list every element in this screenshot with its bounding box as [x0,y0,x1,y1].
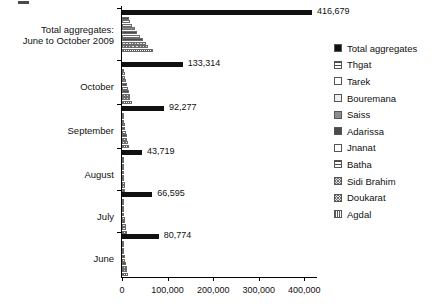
series-bar [122,120,124,123]
figure-corner-mark [18,1,29,4]
series-bar [122,131,126,134]
series-bar [122,72,125,75]
series-bar [122,45,148,48]
series-bar [122,167,124,170]
category-label-line: Total aggregates: [23,24,114,35]
series-bar [122,175,124,178]
series-bar [122,38,143,41]
x-tick-mark [304,277,305,281]
series-bar [122,182,125,185]
legend-item[interactable]: Thgat [334,57,438,74]
series-bar [122,209,124,212]
series-bar [122,76,125,79]
series-bar [122,244,124,247]
legend-item[interactable]: Total aggregates [334,40,438,57]
legend-item[interactable]: Saiss [334,106,438,123]
legend-swatch-icon [334,210,342,218]
category-label-line: July [97,211,114,222]
legend-swatch-icon [334,94,342,102]
series-bar [122,127,125,130]
series-bar [122,220,125,223]
series-bar [122,134,127,137]
category-label: Total aggregates:June to October 2009 [23,24,114,46]
legend-item[interactable]: Doukarat [334,189,438,206]
series-bar [122,35,140,38]
series-bar [122,217,125,220]
total-bar [122,106,164,111]
series-bar [122,97,130,100]
legend-label: Jnanat [347,142,376,153]
series-bar [122,31,137,34]
x-tick-label: 100,000 [151,285,184,295]
series-bar [122,185,125,188]
legend-item[interactable]: Agdal [334,206,438,223]
series-bar [122,248,124,251]
series-bar [122,20,130,23]
series-bar [122,202,124,205]
category-label: June [93,253,114,264]
legend-label: Tarek [347,76,370,87]
series-bar [122,141,128,144]
legend-item[interactable]: Tarek [334,73,438,90]
bar-value-label: 43,719 [147,146,175,156]
bar-value-label: 92,277 [169,102,197,112]
legend-label: Total aggregates [347,43,417,54]
total-bar [122,10,312,15]
x-tick-label: 300,000 [242,285,275,295]
series-bar [122,27,135,30]
x-tick-mark [168,277,169,281]
series-bar [122,90,129,93]
y-axis-tick [117,148,122,149]
series-bar [122,138,127,141]
x-tick-label: 400,000 [288,285,321,295]
series-bar [122,83,127,86]
total-bar [122,234,159,239]
legend-label: Agdal [347,209,371,220]
series-bar [122,42,146,45]
series-bar [122,266,127,269]
series-bar [122,273,128,276]
legend-item[interactable]: Adarissa [334,123,438,140]
bar-value-label: 80,774 [164,230,192,240]
series-bar [122,116,124,119]
legend-label: Sidi Brahim [347,176,396,187]
legend-label: Batha [347,159,372,170]
bar-value-label: 416,679 [317,6,350,16]
legend-item[interactable]: Jnanat [334,140,438,157]
total-bar [122,150,142,155]
x-tick-mark [122,277,123,281]
series-bar [122,164,124,167]
series-bar [122,145,129,148]
category-label: July [97,211,114,222]
series-bar [122,224,126,227]
series-bar [122,178,124,181]
series-bar [122,160,124,163]
x-tick-label: 200,000 [197,285,230,295]
series-bar [122,69,124,72]
legend-swatch-icon [334,77,342,85]
series-bar [122,269,127,272]
series-bar [122,157,124,160]
series-bar [122,17,129,20]
series-bar [122,171,124,174]
legend-item[interactable]: Bouremana [334,90,438,107]
category-label-line: August [84,169,114,180]
legend-swatch-icon [334,144,342,152]
y-axis-tick [117,8,122,9]
legend-swatch-icon [334,111,342,119]
chart-legend: Total aggregatesThgatTarekBouremanaSaiss… [334,40,438,223]
legend-item[interactable]: Sidi Brahim [334,173,438,190]
series-bar [122,241,124,244]
category-label: October [80,81,114,92]
x-tick-label: 0 [119,285,124,295]
series-bar [122,49,153,52]
series-bar [122,213,124,216]
legend-swatch-icon [334,44,342,52]
x-tick-mark [213,277,214,281]
series-bar [122,206,124,209]
legend-swatch-icon [334,127,342,135]
total-bar [122,192,152,197]
legend-label: Adarissa [347,126,384,137]
legend-item[interactable]: Batha [334,156,438,173]
category-label-line: October [80,81,114,92]
